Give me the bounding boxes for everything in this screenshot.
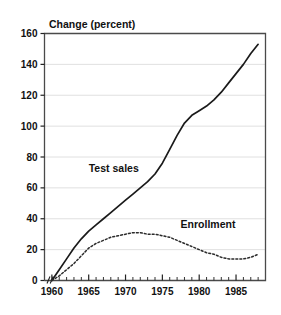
x-tick-label: 1980 bbox=[188, 286, 211, 297]
y-tick-label: 140 bbox=[21, 59, 38, 70]
series-group bbox=[52, 44, 258, 280]
y-tick-label: 20 bbox=[26, 244, 38, 255]
x-axis-ticks bbox=[52, 275, 258, 281]
x-axis-tick-labels: 196019651970197519801985 bbox=[41, 286, 248, 297]
line-chart: 020406080100120140160 196019651970197519… bbox=[0, 0, 281, 315]
x-tick-label: 1960 bbox=[41, 286, 64, 297]
y-tick-label: 160 bbox=[21, 28, 38, 39]
chart-container: 020406080100120140160 196019651970197519… bbox=[0, 0, 281, 315]
x-tick-label: 1975 bbox=[151, 286, 174, 297]
y-tick-label: 120 bbox=[21, 90, 38, 101]
y-tick-label: 100 bbox=[21, 121, 38, 132]
series-label-test-sales: Test sales bbox=[89, 162, 139, 174]
chart-title: Change (percent) bbox=[49, 18, 135, 30]
x-tick-label: 1965 bbox=[78, 286, 101, 297]
series-label-enrollment: Enrollment bbox=[181, 218, 236, 230]
x-tick-label: 1970 bbox=[114, 286, 137, 297]
series-line-test-sales bbox=[52, 44, 258, 280]
y-tick-label: 60 bbox=[26, 182, 38, 193]
y-tick-label: 0 bbox=[32, 275, 38, 286]
x-tick-label: 1985 bbox=[225, 286, 248, 297]
y-tick-label: 80 bbox=[26, 152, 38, 163]
y-axis-tick-labels: 020406080100120140160 bbox=[21, 28, 38, 286]
y-tick-label: 40 bbox=[26, 213, 38, 224]
series-line-enrollment bbox=[52, 233, 258, 281]
